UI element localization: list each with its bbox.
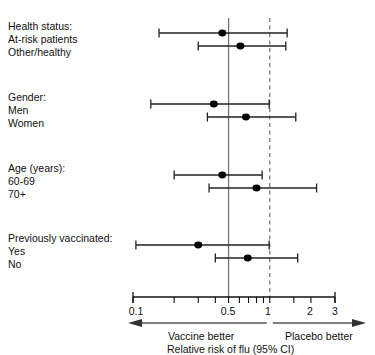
point-estimate-marker [218,172,226,179]
forest-row [207,113,295,122]
point-estimate-marker [242,114,250,121]
point-estimate-marker [218,30,226,37]
confidence-interval-rows [136,29,317,263]
arrow-left-head [128,319,142,327]
forest-row [136,241,269,250]
tick-label-2: 2 [301,306,319,317]
tick-label-3: 3 [326,306,344,317]
point-estimate-marker [244,255,252,262]
direction-arrows-group [128,319,366,327]
forest-row [209,184,317,193]
tick-label-0-1: 0.1 [123,306,149,317]
x-axis-group [133,292,335,303]
direction-label-placebo-better: Placebo better [285,330,353,342]
point-estimate-marker [194,242,202,249]
forest-row [215,254,297,263]
point-estimate-marker [210,101,218,108]
x-axis-title: Relative risk of flu (95% CI) [167,343,294,355]
forest-row [174,171,262,180]
forest-row [198,42,286,51]
point-estimate-marker [252,185,260,192]
forest-row [159,29,287,38]
point-estimate-marker [236,43,244,50]
arrow-right-head [352,319,366,327]
tick-label-1: 1 [259,306,277,317]
forest-row [151,100,269,109]
direction-label-vaccine-better: Vaccine better [168,330,234,342]
tick-label-0-5: 0.5 [215,306,241,317]
